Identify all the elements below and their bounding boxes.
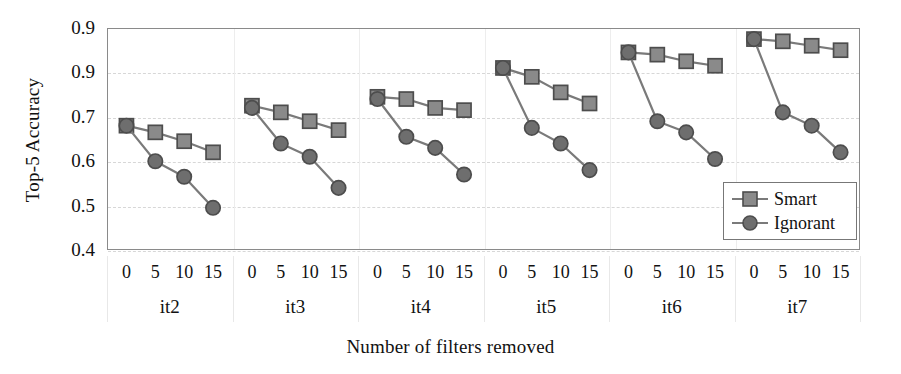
data-point-circle <box>747 32 761 46</box>
gridline <box>108 251 859 252</box>
data-point-square <box>650 48 664 62</box>
y-axis-tick-label: 0.7 <box>0 106 101 128</box>
series-line <box>628 52 715 65</box>
data-point-square <box>525 70 539 84</box>
data-point-circle <box>553 136 567 150</box>
data-point-circle <box>245 101 259 115</box>
data-point-square <box>428 101 442 115</box>
data-point-circle <box>370 92 384 106</box>
chart-legend: Smart Ignorant <box>723 182 857 240</box>
y-axis-tick-label: 0.5 <box>0 195 101 217</box>
data-point-circle <box>582 163 596 177</box>
data-point-circle <box>148 154 162 168</box>
series-line <box>252 106 339 130</box>
chart-figure: Top-5 Accuracy 0.90.90.70.60.50.4 051015… <box>0 0 901 374</box>
data-point-square <box>148 125 162 139</box>
data-point-circle <box>776 105 790 119</box>
x-axis-tick-label: 0 <box>749 262 758 283</box>
series-line <box>126 126 213 208</box>
data-point-circle <box>496 61 510 75</box>
x-axis-tick-label: 0 <box>122 262 131 283</box>
data-point-circle <box>708 152 722 166</box>
series-line <box>503 68 590 170</box>
legend-square-marker-icon <box>730 189 770 209</box>
y-axis-tick-label: 0.6 <box>0 150 101 172</box>
data-point-circle <box>177 170 191 184</box>
x-axis-tick-label: 15 <box>204 262 222 283</box>
data-point-square <box>206 145 220 159</box>
data-point-circle <box>804 118 818 132</box>
x-axis-tick-label: 5 <box>653 262 662 283</box>
x-axis-tick-label: 15 <box>581 262 599 283</box>
x-axis-tick-label: 5 <box>151 262 160 283</box>
x-axis-group-label: it3 <box>285 296 305 318</box>
data-point-square <box>776 34 790 48</box>
data-point-square <box>332 123 346 137</box>
x-axis-tick-label: 0 <box>624 262 633 283</box>
x-axis-group-labels: it2it3it4it5it6it7 <box>0 296 901 324</box>
x-axis-tick-label: 15 <box>455 262 473 283</box>
x-axis-title: Number of filters removed <box>0 336 901 358</box>
y-axis-tick-label: 0.9 <box>0 61 101 83</box>
x-axis-group-label: it2 <box>160 296 180 318</box>
data-point-circle <box>302 150 316 164</box>
x-axis-tick-label: 0 <box>373 262 382 283</box>
data-point-circle <box>679 125 693 139</box>
x-axis-tick-label: 0 <box>498 262 507 283</box>
data-point-square <box>708 59 722 73</box>
data-point-square <box>303 114 317 128</box>
x-axis-tick-label: 10 <box>175 262 193 283</box>
x-axis-tick-label: 15 <box>330 262 348 283</box>
y-axis-tick-label: 0.9 <box>0 17 101 39</box>
series-line <box>754 39 841 152</box>
series-line <box>252 108 339 188</box>
data-point-circle <box>621 45 635 59</box>
x-axis-tick-label: 15 <box>832 262 850 283</box>
data-point-square <box>457 103 471 117</box>
x-axis-tick-label: 10 <box>426 262 444 283</box>
data-point-square <box>399 92 413 106</box>
x-axis-tick-label: 15 <box>706 262 724 283</box>
data-point-circle <box>650 114 664 128</box>
x-axis-tick-label: 10 <box>803 262 821 283</box>
series-line <box>754 39 841 50</box>
data-point-circle <box>525 121 539 135</box>
data-point-square <box>274 105 288 119</box>
data-point-circle <box>833 145 847 159</box>
x-axis-group-label: it4 <box>411 296 431 318</box>
data-point-square <box>679 54 693 68</box>
data-point-circle <box>206 201 220 215</box>
legend-label-ignorant: Ignorant <box>774 213 835 234</box>
legend-item-ignorant[interactable]: Ignorant <box>730 211 850 235</box>
x-axis-group-label: it5 <box>536 296 556 318</box>
data-point-square <box>177 134 191 148</box>
series-line <box>628 52 715 159</box>
x-axis-tick-label: 10 <box>552 262 570 283</box>
series-line <box>377 99 464 174</box>
data-point-circle <box>274 136 288 150</box>
data-point-circle <box>119 118 133 132</box>
data-point-circle <box>428 141 442 155</box>
legend-label-smart: Smart <box>774 189 817 210</box>
series-line <box>503 68 590 104</box>
x-axis-tick-label: 5 <box>402 262 411 283</box>
x-axis-tick-label: 5 <box>527 262 536 283</box>
x-axis-group-label: it7 <box>787 296 807 318</box>
x-axis-tick-label: 10 <box>301 262 319 283</box>
data-point-square <box>834 43 848 57</box>
series-line <box>126 126 213 153</box>
data-point-square <box>554 85 568 99</box>
x-axis-tick-label: 10 <box>677 262 695 283</box>
x-axis-tick-label: 5 <box>778 262 787 283</box>
x-axis-group-label: it6 <box>662 296 682 318</box>
x-axis-tick-labels: 051015051015051015051015051015051015 <box>0 262 901 288</box>
series-line <box>377 97 464 110</box>
legend-item-smart[interactable]: Smart <box>730 187 850 211</box>
data-point-square <box>805 39 819 53</box>
legend-circle-marker-icon <box>730 213 770 233</box>
data-point-circle <box>457 167 471 181</box>
data-point-circle <box>399 130 413 144</box>
data-point-circle <box>331 181 345 195</box>
data-point-square <box>583 96 597 110</box>
x-axis-tick-label: 0 <box>247 262 256 283</box>
